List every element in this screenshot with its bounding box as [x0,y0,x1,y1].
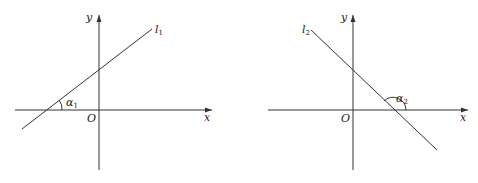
angle-arc-alpha1 [59,100,62,110]
angle-alpha2-label: α2 [396,92,408,106]
angle-alpha1-label: α1 [66,96,78,110]
diagram-canvas: y x O l1 α1 y x O l2 α2 [0,0,478,183]
y-axis-label: y [340,11,348,24]
x-axis-label: x [204,111,211,124]
line-l2-label: l2 [302,23,310,37]
figure-left: y x O l1 α1 [15,11,212,170]
line-l2 [311,30,437,150]
x-axis-label: x [460,111,467,124]
origin-label: O [87,112,96,125]
figure-right: y x O l2 α2 [268,11,468,170]
origin-label: O [341,112,350,125]
line-l1-label: l1 [155,23,163,37]
y-axis-label: y [85,11,93,24]
